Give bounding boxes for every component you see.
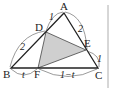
label-b: B [3, 68, 10, 80]
segment-fc: 1−t [60, 69, 75, 80]
triangle-diagram: A B C D E F 1 2 2 1 t 1−t [0, 0, 113, 88]
segment-db: 2 [20, 41, 25, 52]
label-c: C [95, 69, 102, 81]
segment-ec: 1 [97, 53, 102, 64]
label-d: D [35, 21, 43, 33]
label-f: F [34, 68, 40, 80]
label-e: E [84, 37, 91, 49]
segment-ae: 2 [78, 23, 83, 34]
segment-bf: t [22, 69, 25, 80]
segment-ad: 1 [49, 11, 54, 22]
label-a: A [60, 0, 68, 12]
